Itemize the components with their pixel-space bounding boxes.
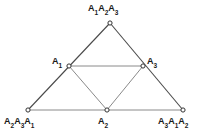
vertex-apex (108, 21, 112, 25)
vertex-mid-left (67, 64, 71, 68)
figure-canvas: A1A2A3 A1 A3 A2A3A1 A2 A3A1A2 (0, 0, 207, 137)
vertex-label-mid-right: A3 (147, 57, 157, 66)
vertex-label-bottom-right: A3A1A2 (158, 117, 188, 126)
edge-left-bm (69, 66, 107, 110)
vertex-bottom-left (26, 108, 30, 112)
vertex-label-apex: A1A2A3 (88, 4, 118, 13)
vertex-mid-right (141, 64, 145, 68)
vertex-label-bottom-left: A2A3A1 (4, 117, 34, 126)
edge-bm-right (107, 66, 143, 110)
vertex-label-mid-left: A1 (52, 57, 62, 66)
vertex-bottom-mid (105, 108, 109, 112)
edges-group (28, 23, 183, 110)
vertex-bottom-right (181, 108, 185, 112)
vertex-label-bottom-mid: A2 (98, 117, 108, 126)
